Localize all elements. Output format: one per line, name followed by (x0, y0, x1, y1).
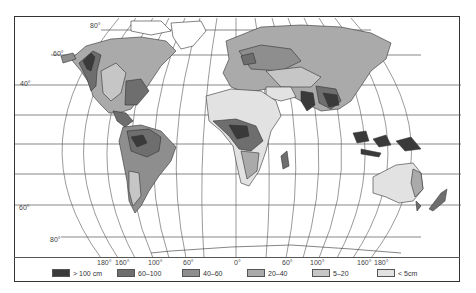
precipitation-legend: > 100 cm 60–100 40–60 20–40 5–20 < 5cm (14, 257, 460, 282)
legend-swatch (377, 269, 395, 277)
precipitation-world-map: 80° 60° 40° 60° 80° 180° 160° 100° 60° 0… (14, 16, 460, 282)
legend-item-20-40: 20–40 (247, 268, 287, 278)
legend-swatch (247, 269, 265, 277)
lat-label-40n: 40° (20, 80, 31, 87)
new-zealand (429, 189, 447, 211)
legend-item-over-100: > 100 cm (52, 268, 102, 278)
legend-label: 20–40 (268, 270, 287, 277)
map-graphic (15, 17, 461, 258)
legend-item-5-20: 5–20 (312, 268, 349, 278)
legend-label: 60–100 (138, 270, 161, 277)
legend-label: > 100 cm (73, 270, 102, 277)
lat-label-80n: 80° (90, 22, 101, 29)
africa (206, 89, 289, 186)
legend-item-under-5: < 5cm (377, 268, 417, 278)
lat-label-60n: 60° (53, 50, 64, 57)
legend-swatch (182, 269, 200, 277)
lat-label-60s: 60° (19, 204, 30, 211)
legend-item-40-60: 40–60 (182, 268, 222, 278)
south-america (113, 111, 176, 213)
legend-label: 5–20 (333, 270, 349, 277)
lat-label-80s: 80° (50, 236, 61, 243)
greenland (171, 21, 206, 49)
north-america (61, 21, 176, 113)
legend-label: < 5cm (398, 270, 417, 277)
legend-swatch (117, 269, 135, 277)
legend-label: 40–60 (203, 270, 222, 277)
antarctica-coast (151, 245, 401, 253)
australia (373, 163, 423, 211)
legend-swatch (52, 269, 70, 277)
legend-swatch (312, 269, 330, 277)
legend-item-60-100: 60–100 (117, 268, 161, 278)
